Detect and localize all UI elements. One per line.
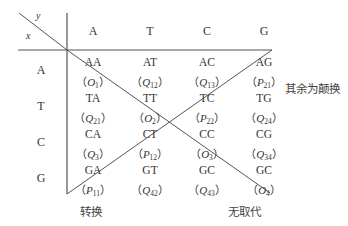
- column-header-t: T: [146, 24, 153, 39]
- paren-close: ）: [101, 112, 112, 124]
- cell-pair: AG: [256, 56, 273, 68]
- cell-probability: （Q12）: [131, 73, 168, 90]
- paren-open: （: [76, 148, 87, 160]
- probability-symbol: Q: [142, 76, 150, 88]
- paren-open: （: [188, 184, 199, 196]
- cell-probability: （Q13）: [188, 73, 225, 90]
- corner-y-label: y: [36, 10, 40, 21]
- probability-symbol: O: [144, 112, 152, 124]
- transversion-label: 其余为颠换: [285, 80, 340, 96]
- corner-x-label: x: [26, 30, 30, 41]
- cell-probability: （Q34）: [245, 145, 282, 162]
- cell-probability: （O1）: [76, 73, 110, 90]
- cell-probability: （O4）: [247, 181, 281, 198]
- paren-open: （: [246, 76, 257, 88]
- row-label-c: C: [37, 135, 45, 150]
- probability-symbol: P: [257, 76, 264, 88]
- cell-pair: TT: [143, 92, 157, 104]
- probability-symbol: Q: [199, 184, 207, 196]
- paren-open: （: [189, 112, 200, 124]
- table-lines: [0, 0, 348, 226]
- cell-pair: TG: [256, 92, 271, 104]
- paren-close: ）: [213, 148, 224, 160]
- probability-symbol: O: [201, 148, 209, 160]
- probability-symbol: Q: [199, 76, 207, 88]
- paren-open: （: [133, 112, 144, 124]
- cell-pair: GC: [256, 164, 272, 176]
- cell-probability: （Q21）: [74, 109, 111, 126]
- probability-symbol: Q: [256, 148, 264, 160]
- paren-close: ）: [215, 76, 226, 88]
- probability-symbol: Q: [87, 148, 95, 160]
- paren-close: ）: [215, 184, 226, 196]
- paren-open: （: [75, 184, 86, 196]
- probability-symbol: O: [258, 184, 266, 196]
- cell-probability: （P11）: [75, 181, 111, 198]
- cell-probability: （P22）: [189, 109, 225, 126]
- paren-close: ）: [272, 148, 283, 160]
- paren-open: （: [245, 148, 256, 160]
- cell-probability: （P12）: [132, 145, 168, 162]
- paren-open: （: [131, 76, 142, 88]
- row-label-g: G: [37, 171, 46, 186]
- cell-probability: （Q3）: [76, 145, 110, 162]
- cell-probability: （Q42）: [131, 181, 168, 198]
- cell-pair: CG: [256, 128, 272, 140]
- probability-symbol: Q: [142, 184, 150, 196]
- cell-pair: CT: [143, 128, 158, 140]
- probability-symbol: P: [86, 184, 93, 196]
- column-header-a: A: [89, 24, 98, 39]
- paren-close: ）: [271, 76, 282, 88]
- paren-close: ）: [99, 148, 110, 160]
- cell-probability: （Q43）: [188, 181, 225, 198]
- paren-close: ）: [158, 76, 169, 88]
- paren-open: （: [131, 184, 142, 196]
- cell-probability: （Q24）: [245, 109, 282, 126]
- cell-pair: GC: [199, 164, 215, 176]
- paren-open: （: [245, 112, 256, 124]
- no-substitution-label: 无取代: [228, 203, 261, 219]
- probability-symbol: Q: [256, 112, 264, 124]
- probability-symbol: Q: [85, 112, 93, 124]
- cell-pair: CA: [85, 128, 101, 140]
- probability-subscript: 11: [93, 189, 100, 198]
- row-label-t: T: [37, 99, 44, 114]
- paren-close: ）: [157, 148, 168, 160]
- paren-open: （: [74, 112, 85, 124]
- cell-pair: TA: [86, 92, 100, 104]
- cell-probability: （P21）: [246, 73, 282, 90]
- paren-close: ）: [100, 184, 111, 196]
- cell-probability: （O2）: [133, 109, 167, 126]
- cell-pair: AA: [85, 56, 102, 68]
- probability-symbol: P: [143, 148, 150, 160]
- cell-pair: CC: [199, 128, 214, 140]
- cell-probability: （O3）: [190, 145, 224, 162]
- probability-symbol: P: [200, 112, 207, 124]
- paren-close: ）: [158, 184, 169, 196]
- paren-open: （: [188, 76, 199, 88]
- paren-close: ）: [214, 112, 225, 124]
- paren-close: ）: [99, 76, 110, 88]
- paren-open: （: [247, 184, 258, 196]
- paren-open: （: [132, 148, 143, 160]
- cell-pair: GA: [85, 164, 102, 176]
- transition-label: 转换: [80, 203, 102, 219]
- paren-close: ）: [156, 112, 167, 124]
- row-label-a: A: [37, 63, 46, 78]
- column-header-c: C: [203, 24, 211, 39]
- paren-close: ）: [270, 184, 281, 196]
- paren-close: ）: [272, 112, 283, 124]
- cell-pair: AC: [199, 56, 215, 68]
- cell-pair: TC: [200, 92, 215, 104]
- probability-symbol: O: [87, 76, 95, 88]
- paren-open: （: [76, 76, 87, 88]
- paren-open: （: [190, 148, 201, 160]
- cell-pair: AT: [143, 56, 157, 68]
- cell-pair: GT: [142, 164, 157, 176]
- column-header-g: G: [260, 24, 269, 39]
